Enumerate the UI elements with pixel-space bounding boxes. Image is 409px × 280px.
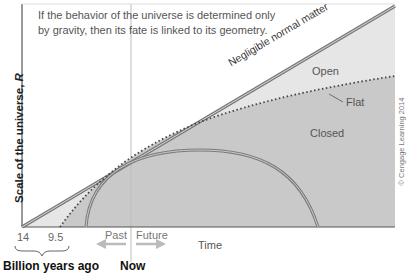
- closed-label: Closed: [310, 127, 344, 139]
- tick-9-5: 9.5: [48, 231, 63, 243]
- x-axis-label: Time: [198, 239, 222, 251]
- open-label: Open: [312, 65, 339, 77]
- y-axis-symbol: R: [13, 73, 25, 81]
- y-axis-label: Scale of the universe, R: [13, 53, 25, 223]
- annotation-text: If the behavior of the universe is deter…: [38, 8, 278, 38]
- ticks-brace: [15, 246, 69, 256]
- past-label: Past: [105, 229, 127, 241]
- copyright-credit: © Cengage Learning 2014: [397, 57, 406, 227]
- tick-14: 14: [17, 231, 29, 243]
- future-label: Future: [136, 229, 168, 241]
- now-label: Now: [120, 259, 145, 273]
- billion-years-ago-label: Billion years ago: [3, 259, 99, 273]
- flat-label: Flat: [346, 96, 364, 108]
- y-axis-label-text: Scale of the universe,: [13, 85, 25, 203]
